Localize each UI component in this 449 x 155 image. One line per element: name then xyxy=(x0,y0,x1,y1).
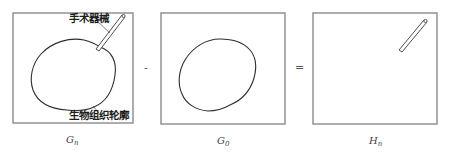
panel-gn: 手术器械 生物组织轮廓 Gn xyxy=(13,12,133,147)
panel-g0-frame xyxy=(161,13,285,124)
minus-operator: - xyxy=(144,61,148,74)
image-difference-diagram: 手术器械 生物组织轮廓 Gn - G0 = Hn xyxy=(0,0,449,155)
equals-operator: = xyxy=(295,61,304,74)
panel-gn-label: Gn xyxy=(66,134,79,147)
panel-hn: Hn xyxy=(313,13,437,148)
tissue-annotation: 生物组织轮廓 xyxy=(69,109,130,121)
tissue-contour xyxy=(179,39,255,111)
surgical-instrument xyxy=(399,19,427,52)
panel-hn-label: Hn xyxy=(368,135,383,148)
instrument-annotation: 手术器械 xyxy=(69,12,110,24)
tissue-contour xyxy=(31,39,115,110)
panel-g0-label: G0 xyxy=(217,135,230,148)
panel-g0: G0 xyxy=(161,13,285,148)
